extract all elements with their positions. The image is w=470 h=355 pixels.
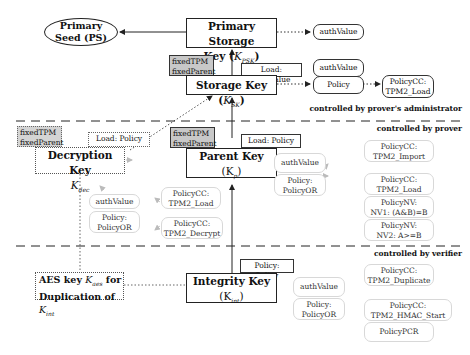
pk-branch-import: PolicyCC:TPM2_Import — [364, 140, 434, 162]
zone-label-prover: controlled by prover — [300, 124, 462, 133]
zone-label-verifier: controlled by verifier — [300, 249, 462, 258]
primary-seed-line1: Primary — [45, 20, 117, 32]
dec-authvalue: authValue — [89, 194, 140, 209]
zone-label-admin: controlled by prover's administrator — [200, 104, 462, 113]
aes-key-node: AES key Kaes for Duplication of Kint — [35, 272, 124, 300]
ik-load-label: Policy: Policy — [240, 259, 294, 273]
primary-storage-key-node: Primary Storage Key (KPSK) — [186, 18, 277, 48]
pk-attributes: fixedTPMfixedParent — [170, 127, 215, 148]
storage-key-node: Storage Key (KSK) — [186, 75, 277, 95]
parent-key-node: Parent Key (Kp) — [186, 148, 277, 178]
dec-policy: Policy:PolicyOR — [89, 211, 140, 233]
dec-branch-decrypt: PolicyCC:TPM2_Decrypt — [161, 217, 223, 239]
pk-load-label: Load: Policy — [241, 134, 301, 148]
dec-attributes: fixedTPMfixedParent — [17, 126, 62, 147]
attr-fixedtpm: fixedTPM — [172, 57, 211, 67]
pk-policy: Policy:PolicyOR — [274, 174, 326, 196]
pk-branch-load: PolicyCC:TPM2_Load — [364, 173, 434, 195]
primary-seed-line2: Seed (PS) — [45, 32, 117, 44]
psk-title: Primary Storage — [187, 19, 276, 49]
ik-authvalue: authValue — [293, 277, 345, 297]
psk-authvalue: authValue — [313, 24, 364, 40]
sk-policy: Policy — [313, 76, 364, 94]
primary-seed-node: Primary Seed (PS) — [44, 18, 118, 46]
sk-authvalue: authValue — [313, 59, 364, 77]
dec-load-label: Load: Policy — [88, 132, 150, 147]
pk-authvalue: authValue — [274, 153, 326, 173]
sk-attributes: fixedTPM fixedParent — [169, 55, 214, 76]
pk-branch-nv1: PolicyNV:NV1: (A&B)=B — [364, 196, 434, 218]
ik-branch-hmac: PolicyCC:TPM2_HMAC_Start — [364, 299, 452, 321]
dec-branch-load: PolicyCC:TPM2_Load — [161, 187, 221, 209]
ik-branch-pcr: PolicyPCR — [364, 322, 434, 342]
pk-branch-nv2: PolicyNV:NV2: A>=B — [364, 219, 434, 241]
integrity-key-node: Integrity Key (Kint) — [186, 273, 277, 303]
sk-policy-cc: PolicyCC:TPM2_Load — [382, 75, 434, 98]
ik-policy: Policy:PolicyOR — [293, 298, 345, 320]
decryption-key-node: Decryption Key Kdec — [35, 147, 125, 174]
ik-branch-duplicate: PolicyCC:TPM2_Duplicate — [364, 264, 434, 286]
